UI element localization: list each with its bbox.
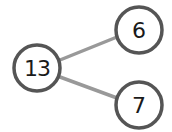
bond-line-bottom [60, 77, 117, 98]
whole-value: 13 [24, 56, 50, 81]
whole-node: 13 [14, 45, 60, 91]
part-node-top: 6 [116, 7, 162, 53]
part-value-top: 6 [132, 18, 146, 43]
part-node-bottom: 7 [116, 82, 162, 128]
bond-line-top [60, 37, 117, 60]
number-bond-diagram: 13 6 7 [0, 0, 172, 132]
part-value-bottom: 7 [132, 93, 146, 118]
